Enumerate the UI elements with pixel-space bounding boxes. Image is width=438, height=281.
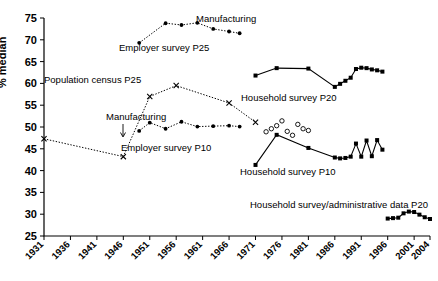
data-point [275, 66, 279, 70]
data-point [428, 217, 432, 221]
data-point [359, 66, 363, 70]
data-point [370, 154, 374, 158]
data-point [238, 31, 242, 35]
annotation-label: Employer survey P10 [121, 142, 211, 153]
series-line [139, 23, 239, 43]
data-point [375, 68, 379, 72]
x-tick-label: 1941 [76, 238, 99, 261]
data-point [137, 129, 141, 133]
x-tick-label: 2004 [409, 238, 432, 261]
data-point [375, 138, 379, 142]
data-point [227, 124, 231, 128]
data-point [338, 156, 342, 160]
y-tick-label: 75 [25, 12, 37, 24]
series-line [139, 122, 239, 131]
data-point [285, 129, 289, 133]
y-tick-label: 30 [25, 208, 37, 220]
data-point [396, 216, 400, 220]
data-point [227, 30, 231, 34]
data-point [306, 128, 310, 132]
data-point [380, 70, 384, 74]
data-point [365, 66, 369, 70]
data-point [333, 85, 337, 89]
series-line [256, 135, 383, 165]
data-point [211, 124, 215, 128]
data-point [226, 100, 231, 105]
x-tick-label: 1951 [128, 238, 151, 261]
data-point [264, 130, 268, 134]
y-tick-label: 45 [25, 143, 37, 155]
data-point [180, 23, 184, 27]
data-point [333, 156, 337, 160]
data-point [306, 67, 310, 71]
data-point [274, 123, 278, 127]
y-axis-title: % median [0, 37, 8, 88]
chart-container: % median 2530354045505560657075193119361… [0, 0, 438, 281]
annotation-label: Employer survey P25 [119, 42, 209, 53]
data-point [121, 154, 126, 159]
data-point [254, 74, 258, 78]
annotation-label: Household survey/administrative data P20 [250, 199, 428, 210]
x-tick-label: 1936 [49, 239, 72, 262]
data-point [306, 146, 310, 150]
x-tick-label: 1996 [366, 239, 389, 262]
data-point [174, 83, 179, 88]
x-tick-label: 1971 [234, 238, 257, 261]
data-point [269, 127, 273, 131]
data-point [164, 21, 168, 25]
data-point [380, 148, 384, 152]
data-point [391, 216, 395, 220]
data-point [354, 142, 358, 146]
data-point [354, 67, 358, 71]
data-point [180, 120, 184, 124]
y-tick-label: 50 [25, 121, 37, 133]
y-tick-label: 60 [25, 77, 37, 89]
annotation-label: Manufacturing [106, 111, 166, 122]
data-point [290, 133, 294, 137]
data-point [195, 125, 199, 129]
annotation-label: Household survey P10 [240, 166, 336, 177]
x-tick-label: 1986 [314, 239, 337, 262]
data-point [402, 211, 406, 215]
data-point [275, 133, 279, 137]
annotation-label: Population census P25 [44, 74, 141, 85]
data-point [417, 213, 421, 217]
data-point [301, 127, 305, 131]
y-tick-label: 55 [25, 99, 37, 111]
x-tick-label: 1966 [208, 239, 231, 262]
data-point [423, 215, 427, 219]
x-tick-label: 1946 [102, 239, 125, 262]
data-point [164, 127, 168, 131]
data-point [407, 210, 411, 214]
data-point [211, 27, 215, 31]
x-tick-label: 1961 [181, 238, 204, 261]
x-tick-label: 1976 [261, 239, 284, 262]
series-line [256, 68, 383, 87]
data-point [349, 155, 353, 159]
data-point [343, 156, 347, 160]
annotation-label: Household survey P20 [241, 92, 337, 103]
data-point [359, 155, 363, 159]
data-point [349, 76, 353, 80]
chart-canvas: 2530354045505560657075193119361941194619… [0, 0, 438, 281]
data-point [412, 210, 416, 214]
x-tick-label: 1991 [340, 238, 363, 261]
y-tick-label: 70 [25, 34, 37, 46]
annotation-label: Manufacturing [196, 13, 256, 24]
y-tick-label: 40 [25, 165, 37, 177]
data-point [370, 67, 374, 71]
data-point [147, 94, 152, 99]
manufacturing-pointer-arrow [121, 124, 126, 137]
y-tick-label: 35 [25, 186, 37, 198]
y-tick-label: 65 [25, 56, 37, 68]
x-tick-label: 1981 [287, 238, 310, 261]
data-point [296, 122, 300, 126]
data-point [280, 119, 284, 123]
data-point [253, 120, 258, 125]
data-point [238, 125, 242, 129]
data-point [386, 217, 390, 221]
data-point [338, 82, 342, 86]
data-point [343, 79, 347, 83]
x-tick-label: 1956 [155, 239, 178, 262]
data-point [365, 139, 369, 143]
